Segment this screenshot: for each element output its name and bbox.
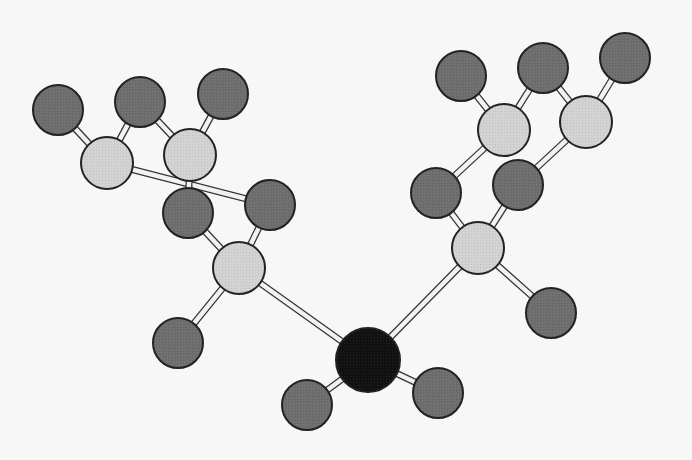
atoms-layer [33, 33, 650, 430]
atom-texture [337, 329, 399, 391]
atom-texture [494, 161, 542, 209]
atom-texture [164, 189, 212, 237]
atom-texture [283, 381, 331, 429]
atom-texture [453, 223, 503, 273]
atom-texture [527, 289, 575, 337]
atom-texture [246, 181, 294, 229]
atom-texture [412, 169, 460, 217]
molecule-svg [0, 0, 692, 460]
atom-texture [214, 243, 264, 293]
atom-texture [437, 52, 485, 100]
atom-texture [414, 369, 462, 417]
atom-texture [82, 138, 132, 188]
atom-texture [154, 319, 202, 367]
atom-texture [479, 105, 529, 155]
atom-texture [519, 44, 567, 92]
atom-texture [601, 34, 649, 82]
atom-texture [561, 97, 611, 147]
atom-texture [165, 130, 215, 180]
atom-texture [116, 78, 164, 126]
atom-texture [199, 70, 247, 118]
molecule-diagram [0, 0, 692, 460]
atom-texture [34, 86, 82, 134]
